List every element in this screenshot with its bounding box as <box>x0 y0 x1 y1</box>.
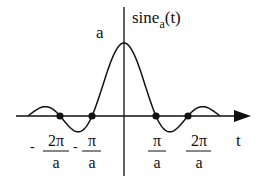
svg-text:π: π <box>153 132 161 149</box>
svg-text:a: a <box>52 154 59 171</box>
tick-label-neg-pi-over-a: - π a <box>73 132 101 171</box>
peak-label: a <box>96 23 104 42</box>
sinc-diagram: sinea(t) a t - 2π a - π a π a 2π a <box>0 0 268 181</box>
svg-text:a: a <box>195 154 202 171</box>
y-axis-label: sinea(t) <box>132 8 181 31</box>
svg-text:-: - <box>73 139 78 154</box>
x-axis-label: t <box>236 131 241 150</box>
svg-text:2π: 2π <box>48 132 64 149</box>
svg-text:2π: 2π <box>191 132 207 149</box>
tick-label-neg-2pi-over-a: - 2π a <box>30 132 69 171</box>
zero-crossing-dot <box>184 112 191 119</box>
tick-label-2pi-over-a: 2π a <box>186 132 211 171</box>
svg-text:a: a <box>153 154 160 171</box>
zero-crossing-dot <box>88 112 95 119</box>
svg-text:a: a <box>88 154 95 171</box>
svg-text:-: - <box>30 139 35 154</box>
tick-label-pi-over-a: π a <box>148 132 166 171</box>
svg-text:π: π <box>88 132 96 149</box>
zero-crossing-dot <box>152 112 159 119</box>
zero-crossing-dot <box>56 112 63 119</box>
x-axis-arrowhead-icon <box>234 110 251 122</box>
